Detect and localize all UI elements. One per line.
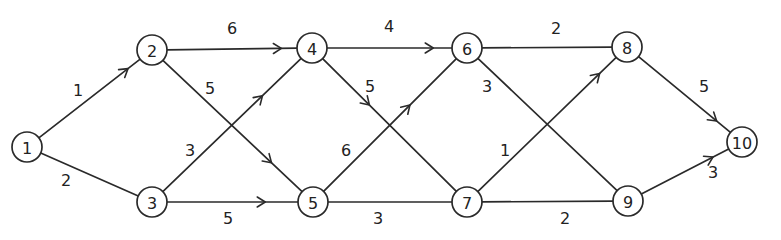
node-label: 4 xyxy=(307,40,317,59)
edge-2-to-4 xyxy=(167,48,297,50)
node-8: 8 xyxy=(612,32,642,62)
edge-weight-label: 3 xyxy=(373,209,383,228)
edge-weight-label: 5 xyxy=(223,209,233,228)
node-10: 10 xyxy=(727,127,757,157)
edge-1-to-3 xyxy=(41,153,139,196)
edge-6-to-8 xyxy=(482,47,612,48)
edges-layer xyxy=(39,47,731,202)
node-9: 9 xyxy=(613,186,643,216)
node-1: 1 xyxy=(12,132,42,162)
node-3: 3 xyxy=(137,187,167,217)
node-label: 2 xyxy=(147,42,157,61)
edge-weight-label: 5 xyxy=(205,79,215,98)
arrows-layer xyxy=(119,43,717,207)
edge-weight-label: 2 xyxy=(560,209,570,228)
node-label: 9 xyxy=(623,193,633,212)
edge-weight-label: 1 xyxy=(500,141,510,160)
edge-7-to-9 xyxy=(482,201,613,202)
edge-weight-label: 3 xyxy=(482,77,492,96)
node-6: 6 xyxy=(452,33,482,63)
edge-weight-label: 4 xyxy=(384,17,394,36)
edge-weight-label: 1 xyxy=(73,81,83,100)
edge-weight-label: 2 xyxy=(61,171,71,190)
network-diagram: 1265354563231253 12345678910 xyxy=(0,0,781,240)
node-label: 6 xyxy=(462,40,472,59)
node-5: 5 xyxy=(298,187,328,217)
node-label: 1 xyxy=(22,139,32,158)
edge-weight-label: 3 xyxy=(185,141,195,160)
node-label: 7 xyxy=(462,194,472,213)
edge-weight-label: 3 xyxy=(708,163,718,182)
node-label: 10 xyxy=(732,134,752,153)
node-label: 8 xyxy=(622,39,632,58)
edge-1-to-2 xyxy=(39,59,140,138)
node-4: 4 xyxy=(297,33,327,63)
node-7: 7 xyxy=(452,187,482,217)
node-label: 5 xyxy=(308,194,318,213)
node-2: 2 xyxy=(137,35,167,65)
edge-weight-label: 5 xyxy=(365,77,375,96)
edge-weight-label: 5 xyxy=(699,77,709,96)
edge-weight-label: 6 xyxy=(341,141,351,160)
node-label: 3 xyxy=(147,194,157,213)
edge-weight-label: 6 xyxy=(227,19,237,38)
edge-weight-label: 2 xyxy=(551,19,561,38)
